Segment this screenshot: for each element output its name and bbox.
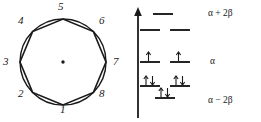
mo-orbital-line <box>155 88 175 98</box>
vertex-label-6: 6 <box>99 15 105 26</box>
vertex-label-5: 5 <box>58 1 64 12</box>
vertex-label-7: 7 <box>113 56 119 67</box>
energy-label-nonbonding: α <box>210 57 215 67</box>
mo-level-bonding-bottom <box>155 88 175 98</box>
mo-diagram-panel: α + 2βαα − 2β <box>130 0 261 122</box>
energy-label-antibonding-top: α + 2β <box>208 9 233 19</box>
vertex-label-1: 1 <box>60 104 66 115</box>
electron-arrow-up <box>176 52 180 61</box>
mo-orbital-line <box>170 76 190 86</box>
electron-arrow-up <box>146 52 150 61</box>
mo-level-bonding-degenerate <box>140 76 190 86</box>
mo-level-group <box>140 14 190 98</box>
frost-circle-panel: 12345678 <box>0 0 130 122</box>
electron-arrow-up <box>159 88 163 97</box>
vertex-label-2: 2 <box>18 88 24 99</box>
mo-orbital-line <box>140 76 160 86</box>
vertex-label-4: 4 <box>18 15 24 26</box>
energy-label-bonding-bottom: α − 2β <box>208 96 233 106</box>
vertex-label-3: 3 <box>3 56 9 67</box>
electron-arrow-down <box>150 76 154 85</box>
electron-arrow-down <box>180 76 184 85</box>
center-dot <box>61 60 64 63</box>
mo-orbital-line <box>170 52 190 62</box>
vertex-label-8: 8 <box>99 88 105 99</box>
electron-arrow-up <box>144 76 148 85</box>
chemistry-figure: 12345678 α + 2βαα − 2β <box>0 0 261 122</box>
electron-arrow-down <box>165 88 169 97</box>
mo-orbital-line <box>140 52 160 62</box>
mo-level-nonbonding <box>140 52 190 62</box>
electron-arrow-up <box>174 76 178 85</box>
mo-diagram-svg <box>130 0 261 122</box>
